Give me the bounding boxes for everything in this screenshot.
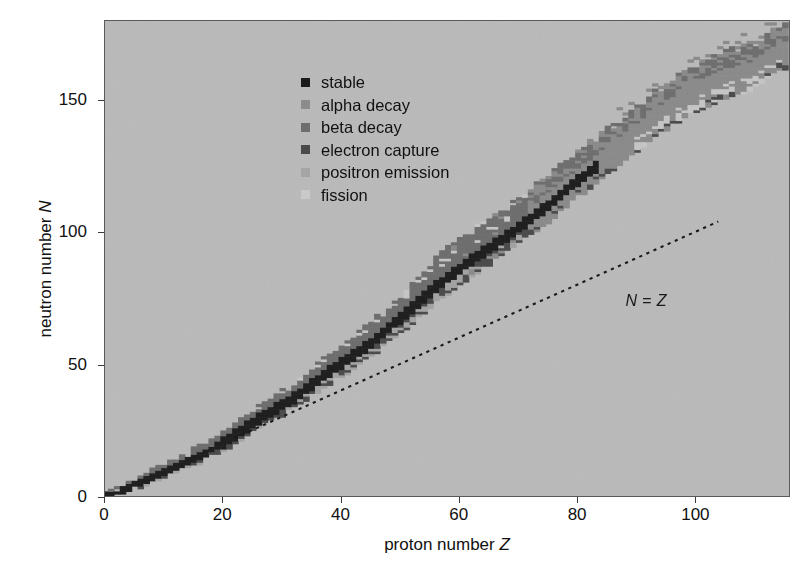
- legend-item-beta-decay: beta decay: [301, 116, 449, 139]
- x-tick-60: [459, 497, 460, 503]
- y-tick-label-50: 50: [68, 355, 87, 375]
- legend-label: electron capture: [321, 142, 439, 159]
- x-tick-label-0: 0: [99, 505, 108, 525]
- nuclide-chart-figure: N = Z stablealpha decaybeta decayelectro…: [0, 0, 809, 576]
- y-tick-label-150: 150: [59, 90, 87, 110]
- square-marker-icon: [301, 168, 310, 177]
- y-tick-label-0: 0: [78, 487, 87, 507]
- x-tick-label-60: 60: [449, 505, 468, 525]
- plot-area: N = Z stablealpha decaybeta decayelectro…: [104, 20, 790, 497]
- square-marker-icon: [301, 145, 310, 154]
- nz-symbol-z: Z: [657, 292, 667, 309]
- x-tick-label-20: 20: [213, 505, 232, 525]
- x-tick-100: [695, 497, 696, 503]
- y-axis-title-text: neutron number: [36, 218, 55, 338]
- legend-label: stable: [321, 74, 365, 91]
- n-equals-z-label: N = Z: [625, 292, 667, 310]
- y-axis-title: neutron number N: [36, 149, 56, 389]
- legend-label: alpha decay: [321, 97, 410, 114]
- x-tick-label-40: 40: [331, 505, 350, 525]
- legend-item-alpha-decay: alpha decay: [301, 94, 449, 117]
- y-tick-label-100: 100: [59, 222, 87, 242]
- legend-label: fission: [321, 187, 368, 204]
- legend-item-positron-emission: positron emission: [301, 161, 449, 184]
- y-tick-100: [98, 232, 104, 233]
- square-marker-icon: [301, 100, 310, 109]
- x-tick-20: [222, 497, 223, 503]
- square-marker-icon: [301, 123, 310, 132]
- nz-operator: =: [637, 292, 656, 309]
- y-tick-50: [98, 365, 104, 366]
- x-axis-title-symbol: Z: [499, 535, 509, 554]
- y-tick-0: [98, 497, 104, 498]
- x-tick-0: [104, 497, 105, 503]
- x-tick-label-100: 100: [681, 505, 709, 525]
- y-tick-150: [98, 100, 104, 101]
- x-axis-title: proton number Z: [104, 535, 790, 555]
- legend-label: beta decay: [321, 119, 402, 136]
- square-marker-icon: [301, 78, 310, 87]
- legend: stablealpha decaybeta decayelectron capt…: [301, 71, 449, 206]
- x-tick-80: [577, 497, 578, 503]
- legend-item-electron-capture: electron capture: [301, 139, 449, 162]
- square-marker-icon: [301, 190, 310, 199]
- y-axis-title-symbol: N: [36, 200, 55, 212]
- legend-item-stable: stable: [301, 71, 449, 94]
- nz-symbol-n: N: [625, 292, 637, 309]
- x-tick-40: [341, 497, 342, 503]
- legend-item-fission: fission: [301, 184, 449, 207]
- x-tick-label-80: 80: [568, 505, 587, 525]
- x-axis-title-text: proton number: [384, 535, 495, 554]
- legend-label: positron emission: [321, 164, 449, 181]
